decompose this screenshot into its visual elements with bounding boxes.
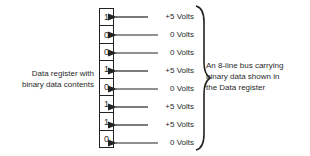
voltage-label: 0 Volts <box>138 138 194 147</box>
voltage-label: +5 Volts <box>138 12 194 21</box>
voltage-label: +5 Volts <box>138 66 194 75</box>
voltage-label: 0 Volts <box>138 48 194 57</box>
voltage-label: 0 Volts <box>138 84 194 93</box>
bus-label-line: the Data register <box>206 82 310 93</box>
voltage-label: +5 Volts <box>138 102 194 111</box>
voltage-label: 0 Volts <box>138 30 194 39</box>
bus-label: An 8-line bus carrying binary data shown… <box>206 60 310 93</box>
voltage-label: +5 Volts <box>138 120 194 129</box>
bus-label-line: binary data shown in <box>206 71 310 82</box>
bus-label-line: An 8-line bus carrying <box>206 60 310 71</box>
